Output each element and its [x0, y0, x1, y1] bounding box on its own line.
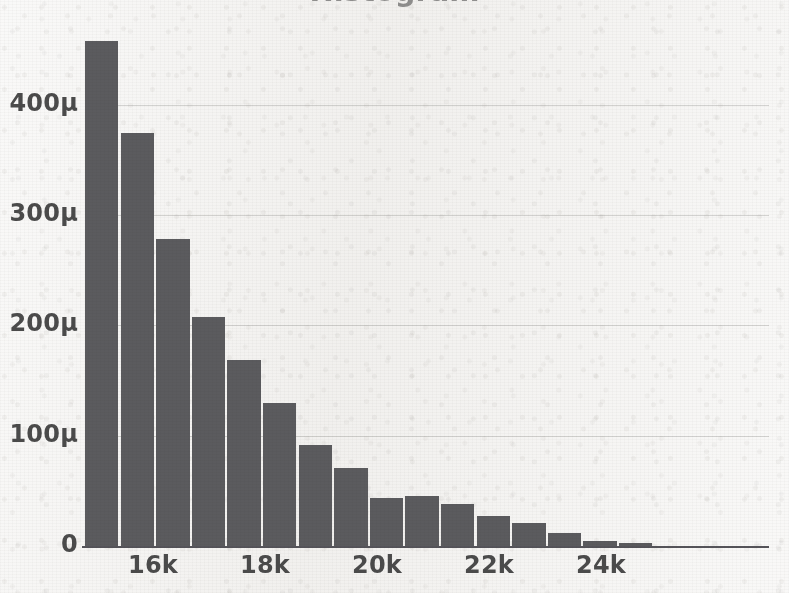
x-axis-tick-label: 16k	[128, 551, 178, 579]
x-axis-tick-label: 20k	[352, 551, 402, 579]
histogram-bar	[477, 516, 510, 546]
x-axis-tick-label: 18k	[240, 551, 290, 579]
histogram-bar	[405, 496, 438, 546]
histogram-bar	[192, 317, 225, 547]
gridline-y-300	[85, 215, 769, 216]
histogram-bar	[370, 498, 403, 547]
x-axis-tick-label: 22k	[464, 551, 514, 579]
chart-title-clipped: Histogram	[0, 0, 789, 10]
y-axis-tick-label: 400µ	[9, 89, 78, 117]
y-axis-tick-label: 200µ	[9, 309, 78, 337]
histogram-bar	[263, 403, 296, 546]
gridline-y-400	[85, 105, 769, 106]
y-axis-tick-label: 0	[61, 530, 78, 558]
x-axis-tick-label: 24k	[576, 551, 626, 579]
histogram-bar	[299, 445, 332, 547]
histogram-bar	[334, 468, 367, 546]
y-axis-tick-label: 300µ	[9, 199, 78, 227]
x-axis-line	[82, 546, 769, 548]
histogram-chart: Histogram 0100µ200µ300µ400µ16k18k20k22k2…	[0, 0, 789, 593]
histogram-bar	[227, 360, 260, 547]
histogram-bar	[441, 504, 474, 546]
histogram-bar	[85, 41, 118, 546]
histogram-bar	[548, 533, 581, 546]
chart-title-text: Histogram	[0, 0, 789, 8]
histogram-bar	[512, 523, 545, 546]
y-axis-tick-label: 100µ	[9, 420, 78, 448]
histogram-bar	[121, 133, 154, 546]
histogram-bar	[156, 239, 189, 546]
